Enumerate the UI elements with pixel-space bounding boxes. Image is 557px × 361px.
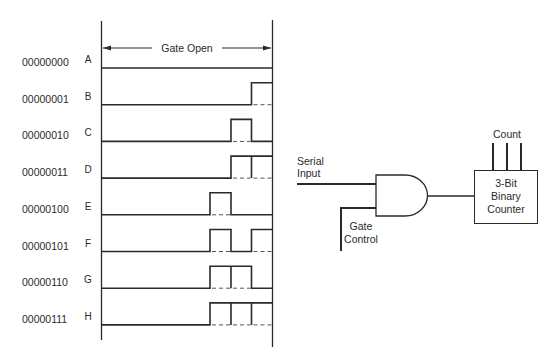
- binary-code-label: 00000010: [22, 129, 69, 141]
- and-gate-icon: [376, 175, 428, 216]
- counter-label-line3: Counter: [487, 203, 525, 215]
- serial-input-label-line1: Serial: [297, 155, 324, 167]
- pulse-waveform: [102, 83, 273, 105]
- gate-open-label: Gate Open: [161, 42, 213, 54]
- binary-code-label: 00000100: [22, 203, 69, 215]
- binary-code-label: 00000000: [22, 56, 69, 68]
- waveform-row-a: 00000000A: [22, 54, 273, 68]
- gate-control-label-line2: Control: [344, 233, 378, 245]
- arrow-right-icon: [263, 46, 271, 51]
- counter-label-line1: 3-Bit: [495, 177, 517, 189]
- gate-open-dimension: Gate Open: [103, 42, 271, 54]
- waveform-row-h: 00000111H: [22, 303, 273, 325]
- waveform-rows: 00000000A00000001B00000010C00000011D0000…: [22, 54, 273, 325]
- row-letter-label: A: [85, 54, 92, 65]
- gate-control: Gate Control: [341, 208, 378, 251]
- serial-input: Serial Input: [297, 155, 376, 184]
- binary-code-label: 00000011: [22, 166, 68, 178]
- row-letter-label: D: [84, 164, 91, 175]
- row-letter-label: F: [85, 238, 91, 249]
- pulse-waveform: [102, 119, 273, 141]
- pulse-waveform: [102, 266, 273, 288]
- row-letter-label: C: [84, 127, 91, 138]
- serial-input-label-line2: Input: [297, 167, 320, 179]
- row-letter-label: B: [85, 91, 92, 102]
- row-letter-label: H: [84, 311, 91, 322]
- gated-counter-diagram: Gate Open 00000000A00000001B00000010C000…: [0, 0, 557, 361]
- binary-code-label: 00000101: [22, 240, 69, 252]
- count-label: Count: [493, 128, 521, 140]
- counter-label-line2: Binary: [491, 190, 522, 202]
- waveform-row-b: 00000001B: [22, 83, 273, 105]
- pulse-waveform: [102, 156, 273, 178]
- binary-code-label: 00000111: [22, 313, 67, 325]
- waveform-row-e: 00000100E: [22, 193, 273, 215]
- row-letter-label: E: [85, 201, 92, 212]
- pulse-waveform: [102, 230, 273, 252]
- pulse-waveform: [102, 303, 273, 325]
- waveform-row-d: 00000011D: [22, 156, 273, 178]
- arrow-left-icon: [103, 46, 111, 51]
- pulse-waveform: [102, 193, 273, 215]
- waveform-row-c: 00000010C: [22, 119, 273, 141]
- waveform-row-f: 00000101F: [22, 230, 273, 252]
- gate-control-label-line1: Gate: [350, 220, 373, 232]
- row-letter-label: G: [84, 274, 92, 285]
- binary-code-label: 00000110: [22, 276, 68, 288]
- binary-code-label: 00000001: [22, 93, 69, 105]
- binary-counter: 3-Bit Binary Counter Count: [475, 128, 538, 224]
- waveform-row-g: 00000110G: [22, 266, 273, 288]
